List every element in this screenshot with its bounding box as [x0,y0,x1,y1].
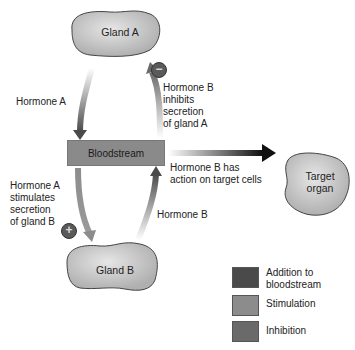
bloodstream-label: Bloodstream [88,148,144,159]
arrowhead-hormone-a [73,130,87,140]
legend-swatch-stimulation [232,295,259,316]
arrow-to-target-shaft [168,150,262,156]
stimulation-plus-icon: + [61,223,77,239]
label-hormone-b: Hormone B [157,209,208,221]
legend-label-addition: Addition to bloodstream [266,267,321,291]
target-organ-label: Target organ [296,170,344,194]
arrowhead-hormone-b [150,166,162,176]
arrowhead-stimulation [83,230,96,242]
legend-item-stimulation: Stimulation [232,295,315,316]
label-hormone-a: Hormone A [16,96,66,108]
bloodstream-box: Bloodstream [67,140,165,166]
gland-b-label: Gland B [85,264,145,276]
label-hormone-b-inhibits: Hormone B inhibits secretion of gland A [163,82,214,130]
arrow-hormone-b-inhibition [152,72,160,138]
legend-label-stimulation: Stimulation [266,298,315,310]
legend-swatch-addition [232,267,259,288]
inhibition-minus-icon: − [151,62,167,78]
arrow-hormone-b-addition [138,174,156,240]
arrowhead-target [262,144,276,162]
arrow-hormone-a-stimulation [78,168,90,234]
legend-item-inhibition: Inhibition [232,321,306,342]
legend-swatch-inhibition [232,321,259,342]
gland-a-label: Gland A [90,26,150,38]
legend-label-inhibition: Inhibition [266,325,306,337]
arrow-hormone-a-addition [80,68,92,132]
legend-item-addition: Addition to bloodstream [232,267,321,291]
label-hormone-b-action: Hormone B has action on target cells [170,162,262,186]
label-hormone-a-stimulates: Hormone A stimulates secretion of gland … [10,180,60,228]
